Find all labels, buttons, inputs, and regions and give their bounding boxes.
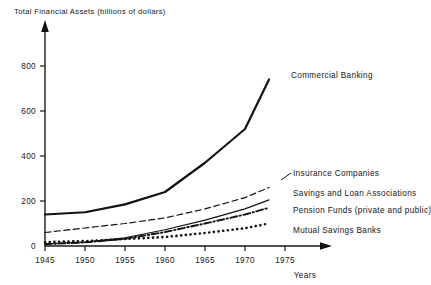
y-tick-labels: 800 600 400 200 0 [21, 62, 36, 251]
series-path-commercial-banking [45, 80, 269, 215]
series-label-savings-and-loan-associations: Savings and Loan Associations [293, 189, 417, 198]
chart-svg: 800 600 400 200 0 1945 1950 1955 1960 19… [0, 0, 431, 285]
y-tick-label-0: 0 [31, 242, 36, 251]
x-tick-label-1950: 1950 [75, 256, 95, 265]
x-tick-label-1955: 1955 [115, 256, 135, 265]
y-tick-label-400: 400 [21, 152, 36, 161]
y-tick-label-800: 800 [21, 62, 36, 71]
x-axis-arrow-icon [320, 242, 332, 250]
chart-title: Total Financial Assets (billions of doll… [14, 7, 166, 16]
x-tick-label-1960: 1960 [155, 256, 175, 265]
x-axis-caption: Years [294, 271, 316, 280]
y-axis-arrow-icon [41, 20, 49, 32]
y-tick-label-200: 200 [21, 197, 36, 206]
series-paths [45, 80, 269, 245]
x-tick-label-1975: 1975 [275, 256, 295, 265]
y-tick-label-600: 600 [21, 107, 36, 116]
x-tick-labels: 1945 1950 1955 1960 1965 1970 1975 [35, 256, 295, 265]
leader-line-insurance-companies [281, 173, 291, 180]
series-label-pension-funds: Pension Funds (private and public) [293, 206, 431, 215]
series-label-commercial-banking: Commercial Banking [291, 71, 373, 80]
x-tick-label-1965: 1965 [195, 256, 215, 265]
chart-figure: 800 600 400 200 0 1945 1950 1955 1960 19… [0, 0, 431, 285]
x-tick-label-1970: 1970 [235, 256, 255, 265]
series-label-mutual-savings-banks: Mutual Savings Banks [293, 226, 381, 235]
axes [40, 20, 332, 251]
series-label-insurance-companies: Insurance Companies [293, 169, 379, 178]
x-tick-label-1945: 1945 [35, 256, 55, 265]
series-labels: Commercial Banking Insurance Companies S… [281, 71, 431, 235]
